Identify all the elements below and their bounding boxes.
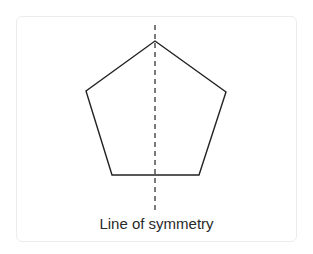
symmetry-caption: Line of symmetry: [0, 215, 313, 232]
pentagon-shape: [86, 41, 226, 175]
